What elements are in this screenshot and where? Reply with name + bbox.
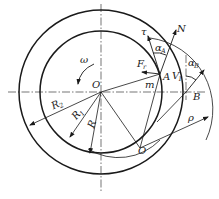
center-o-label: O [92,79,100,90]
alpha-b-label: α B [188,57,199,70]
r1-label: R 1 [69,106,87,124]
point-a-label: A [162,71,170,82]
rho-arrow [140,117,208,148]
svg-text:1: 1 [178,75,182,83]
normal-label: N [176,23,187,34]
cam-geometry-diagram: ω O τ N α A F r A V 1 α B B m R 2 R 1 R … [0,0,219,199]
r2-label: R 2 [49,97,65,114]
lower-center-o-label: O [138,145,146,156]
force-fr-label: F r [136,58,147,71]
svg-text:r: r [143,63,147,71]
line-o-to-lower-o [101,92,140,148]
m-label: m [145,79,154,90]
force-fr-arrow [142,72,160,74]
svg-text:A: A [160,47,166,55]
r-label: R [85,118,98,130]
point-b-label: B [192,91,200,102]
svg-text:B: B [193,62,199,70]
omega-label: ω [80,54,88,65]
alpha-b-arc [186,76,196,80]
tau-label: τ [141,26,147,37]
rho-label: ρ [187,112,194,123]
velocity-b-arrow [186,70,204,92]
